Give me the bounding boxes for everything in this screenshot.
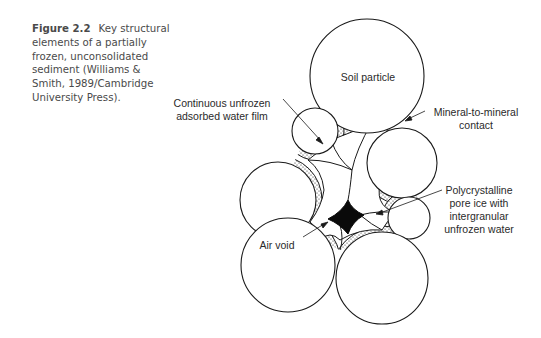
- label-soil-particle: Soil particle: [341, 71, 395, 83]
- label-pore-ice-2: pore ice with: [450, 197, 509, 209]
- label-water-film-2: adsorbed water film: [176, 110, 268, 122]
- label-pore-ice-3: intergranular: [450, 210, 509, 222]
- soil-particle-small-right: [388, 197, 430, 239]
- soil-particle-small-left: [292, 108, 338, 154]
- label-pore-ice-1: Polycrystalline: [445, 184, 512, 196]
- soil-particle-bottom-left: [241, 218, 335, 312]
- label-air-void: Air void: [259, 239, 294, 251]
- sediment-diagram: Soil particle Continuous unfrozen adsorb…: [0, 0, 541, 338]
- soil-particle-right: [367, 128, 437, 198]
- soil-particle-bottom-right: [336, 232, 428, 324]
- label-mineral-contact-2: contact: [459, 119, 493, 131]
- label-mineral-contact-1: Mineral-to-mineral: [434, 106, 519, 118]
- label-pore-ice-4: unfrozen water: [444, 223, 514, 235]
- label-water-film-1: Continuous unfrozen: [174, 97, 271, 109]
